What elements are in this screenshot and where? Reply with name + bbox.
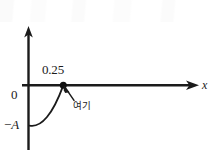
negative-amplitude-label: −A: [4, 118, 19, 131]
zero-crossing-value-label: 0.25: [42, 63, 64, 76]
here-annotation-label: 여기: [73, 101, 90, 111]
wave-curve: [30, 86, 64, 126]
origin-label: 0: [11, 88, 18, 101]
figure-canvas: 0.25 0 −A x 여기: [0, 0, 216, 163]
graph-svg: [0, 0, 216, 163]
amplitude-letter-glyph: A: [11, 117, 19, 132]
x-axis-label: x: [202, 79, 207, 91]
